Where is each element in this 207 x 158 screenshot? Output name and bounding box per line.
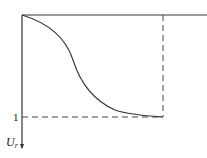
axis-label: Ur: [6, 135, 19, 150]
tick-label-one: 1: [13, 111, 19, 123]
decay-curve: [22, 15, 163, 117]
axis-arrow-icon: [20, 144, 24, 149]
diagram-canvas: 1 Ur: [0, 0, 207, 158]
axis-label-sub: r: [15, 141, 19, 150]
